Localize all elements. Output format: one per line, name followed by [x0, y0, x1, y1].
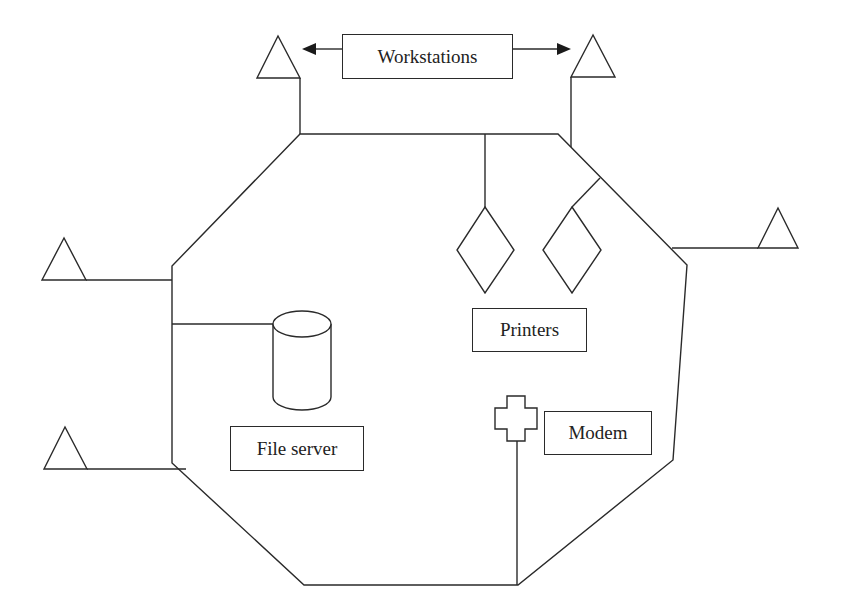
printer-1-icon [457, 207, 514, 293]
workstations-label: Workstations [342, 34, 513, 79]
workstation-top-left-icon [257, 36, 300, 78]
modem-label: Modem [544, 411, 652, 455]
network-diagram [0, 0, 842, 616]
workstation-right-icon [758, 208, 798, 248]
printer-2-icon [543, 207, 601, 293]
printers-label: Printers [472, 308, 587, 352]
file-server-label: File server [230, 426, 364, 471]
modem-icon [495, 396, 537, 441]
workstation-left-upper-icon [42, 238, 86, 280]
arrow-right-icon [557, 43, 571, 55]
workstation-left-lower-icon [44, 427, 87, 469]
link-printer-2 [572, 178, 600, 207]
network-backbone-ring [172, 134, 687, 585]
file-server-icon [273, 311, 331, 410]
arrow-left-icon [302, 43, 316, 55]
workstation-top-right-icon [571, 35, 615, 77]
